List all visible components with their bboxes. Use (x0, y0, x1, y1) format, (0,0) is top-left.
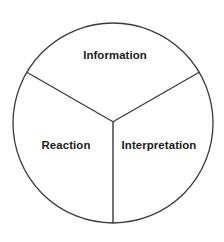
three-sector-circle-diagram: Information Interpretation Reaction (0, 0, 224, 242)
sector-label-information: Information (83, 49, 147, 62)
diagram-canvas (0, 0, 224, 242)
sector-label-interpretation: Interpretation (122, 139, 197, 152)
sector-label-reaction: Reaction (42, 139, 91, 152)
